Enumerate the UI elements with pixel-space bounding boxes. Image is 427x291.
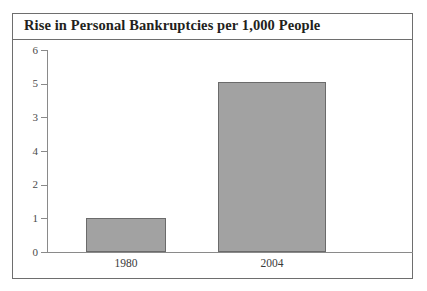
bar-1980 [86, 218, 166, 252]
y-axis-tick-mark [41, 218, 48, 219]
y-axis-tick-mark [41, 50, 48, 51]
y-axis-tick-label: 2 [13, 179, 38, 190]
y-axis-tick-mark [41, 151, 48, 152]
chart-figure: Rise in Personal Bankruptcies per 1,000 … [12, 13, 413, 279]
y-axis-tick-mark [41, 117, 48, 118]
y-axis-tick-label: 3 [13, 112, 38, 123]
y-axis-tick-mark [41, 185, 48, 186]
y-axis-tick-label-text: 5 [16, 78, 38, 89]
y-axis-tick-label-text: 0 [16, 247, 38, 258]
y-axis-tick-label: 0 [13, 247, 38, 258]
chart-title-bar: Rise in Personal Bankruptcies per 1,000 … [13, 14, 412, 40]
page-title: Rise in Personal Bankruptcies per 1,000 … [24, 17, 320, 34]
bar-2004 [218, 82, 326, 252]
plot-area: 6534210 19802004 [13, 40, 412, 279]
y-axis-tick-label-text: 6 [16, 45, 38, 56]
y-axis-tick-label-text: 3 [16, 112, 38, 123]
y-axis-tick-label-text: 4 [16, 146, 38, 157]
y-axis-tick-label: 6 [13, 45, 38, 56]
y-axis-tick-label: 4 [13, 146, 38, 157]
y-axis-tick-label-text: 1 [16, 213, 38, 224]
x-axis-label-2004: 2004 [218, 258, 326, 270]
y-axis-tick-mark [41, 84, 48, 85]
y-axis-tick-label: 1 [13, 213, 38, 224]
y-axis-tick-mark [41, 252, 48, 253]
y-axis-tick-label-text: 2 [16, 179, 38, 190]
y-axis-tick-label: 5 [13, 78, 38, 89]
x-axis-line [47, 252, 413, 253]
x-axis-label-1980: 1980 [86, 258, 166, 270]
